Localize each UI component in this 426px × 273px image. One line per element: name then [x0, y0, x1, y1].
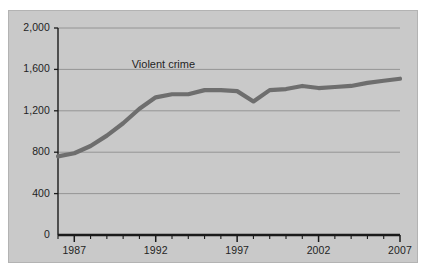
- chart-plot-area: [0, 0, 426, 273]
- y-tick-label-400: 400: [4, 187, 50, 199]
- x-tick-label-1992: 1992: [133, 244, 179, 256]
- series-annotation-label: Violent crime: [132, 58, 195, 70]
- y-tick-label-1600: 1,600: [4, 62, 50, 74]
- gridlines-group: [54, 28, 400, 194]
- chart-figure: 04008001,2001,6002,000 19871992199720022…: [0, 0, 426, 273]
- x-tick-label-2007: 2007: [377, 244, 423, 256]
- x-tick-label-2002: 2002: [296, 244, 342, 256]
- y-tick-label-0: 0: [4, 228, 50, 240]
- y-tick-label-1200: 1,200: [4, 104, 50, 116]
- x-tick-label-1987: 1987: [51, 244, 97, 256]
- series-line-violent-crime: [58, 79, 400, 157]
- x-tick-label-1997: 1997: [214, 244, 260, 256]
- y-tick-label-800: 800: [4, 145, 50, 157]
- y-tick-label-2000: 2,000: [4, 21, 50, 33]
